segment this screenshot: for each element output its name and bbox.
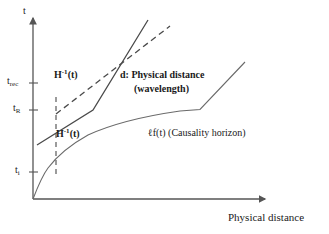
- hubble-lower-base: H: [56, 128, 64, 139]
- annotation-causality-horizon: ℓf(t) (Causality horizon): [148, 128, 246, 138]
- hubble-upper-base: H: [54, 69, 62, 80]
- annotation-physical-distance-line1: d: Physical distance: [120, 70, 204, 80]
- hubble-lower-arg: (t): [70, 128, 80, 139]
- tick-label-t-rec: trec: [7, 76, 18, 86]
- annotation-hubble-radius-upper: H-1(t): [54, 70, 78, 80]
- tick-label-t-R: tR: [13, 103, 20, 113]
- hubble-lower-sup: -1: [64, 127, 70, 135]
- y-axis-label: t: [23, 6, 26, 16]
- plot-svg: [0, 0, 329, 234]
- tick-label-t-R-sub: R: [16, 107, 21, 115]
- tick-label-t-rec-sub: rec: [10, 80, 19, 88]
- annotation-physical-distance-line2: (wavelength): [134, 84, 189, 94]
- tick-label-t-i-sub: i: [18, 169, 20, 177]
- figure-canvas: t Physical distance trec tR ti H-1(t) H-…: [0, 0, 329, 234]
- hubble-upper-arg: (t): [68, 69, 78, 80]
- tick-label-t-i: ti: [15, 165, 20, 175]
- annotation-hubble-radius-lower: H-1(t): [56, 129, 80, 139]
- curve-physical-distance: [37, 20, 148, 145]
- hubble-upper-sup: -1: [62, 68, 68, 76]
- x-axis-label: Physical distance: [228, 212, 304, 223]
